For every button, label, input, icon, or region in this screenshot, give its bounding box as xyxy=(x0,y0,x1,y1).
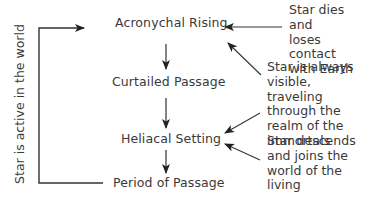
stage-period-of-passage: Period of Passage xyxy=(113,175,225,190)
diagram-canvas: Acronychal Rising Curtailed Passage Heli… xyxy=(0,0,370,202)
stage-acronychal-rising: Acronychal Rising xyxy=(115,15,228,30)
side-label-active-in-world: Star is active in the world xyxy=(12,24,27,184)
stage-curtailed-passage: Curtailed Passage xyxy=(112,74,226,89)
note-arrow-visible-bottom xyxy=(225,113,260,133)
note-star-descends: Star descends and joins the world of the… xyxy=(267,134,356,193)
note-arrow-descends xyxy=(225,144,260,160)
stage-heliacal-setting: Heliacal Setting xyxy=(121,131,221,146)
cycle-bracket xyxy=(39,28,103,183)
note-arrow-visible-top xyxy=(228,43,261,75)
